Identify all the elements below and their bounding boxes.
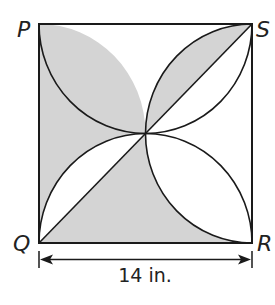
- square-diagram: [0, 0, 275, 305]
- vertex-label-s: S: [256, 19, 270, 41]
- dimension-label: 14 in.: [0, 266, 275, 285]
- geometry-figure: P S Q R 14 in.: [0, 0, 275, 305]
- vertex-label-q: Q: [13, 233, 30, 255]
- vertex-label-r: R: [257, 233, 272, 255]
- vertex-label-p: P: [17, 19, 30, 41]
